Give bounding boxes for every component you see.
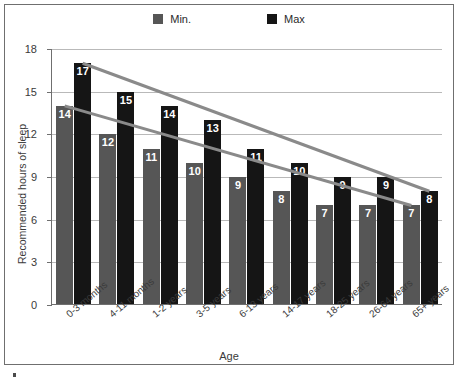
y-tick-label: 15 [3,86,37,98]
bar-max[interactable]: 9 [334,177,351,305]
bar-value-label: 7 [359,207,376,219]
bar-value-label: 7 [316,207,333,219]
chart-frame: Min. Max Recommended hours of sleep 1417… [4,4,454,365]
bar-max[interactable]: 15 [117,92,134,305]
bar-group: 1215 [95,49,138,305]
y-tick-mark [47,134,51,135]
legend-swatch-max-icon [267,14,277,24]
bar-min[interactable]: 9 [229,177,246,305]
bar-value-label: 11 [247,151,264,163]
bar-min[interactable]: 14 [56,106,73,305]
legend-label-max: Max [284,13,305,25]
x-axis-title: Age [5,350,453,362]
bar-max[interactable]: 17 [74,63,91,305]
y-tick-mark [47,262,51,263]
y-tick-label: 12 [3,128,37,140]
bar-value-label: 10 [291,165,308,177]
bar-value-label: 17 [74,65,91,77]
bar-max[interactable]: 8 [421,191,438,305]
bar-max[interactable]: 10 [291,163,308,305]
bar-value-label: 14 [56,108,73,120]
bar-value-label: 12 [99,136,116,148]
bar-group: 1013 [182,49,225,305]
legend-entry-min: Min. [153,13,191,25]
y-tick-label: 3 [3,256,37,268]
bar-value-label: 8 [421,193,438,205]
bar-value-label: 14 [161,108,178,120]
bar-value-label: 8 [273,193,290,205]
bar-group: 79 [355,49,398,305]
bar-value-label: 13 [204,122,221,134]
bar-value-label: 9 [377,179,394,191]
bar-max[interactable]: 14 [161,106,178,305]
y-tick-label: 18 [3,43,37,55]
y-tick-mark [47,305,51,306]
y-tick-label: 6 [3,214,37,226]
stray-mark [13,373,16,377]
bar-max[interactable]: 9 [377,177,394,305]
bar-group: 911 [225,49,268,305]
y-tick-mark [47,49,51,50]
bar-value-label: 9 [334,179,351,191]
chart-legend: Min. Max [5,13,453,25]
bar-group: 810 [269,49,312,305]
bar-max[interactable]: 11 [247,149,264,305]
bar-value-label: 15 [117,94,134,106]
legend-label-min: Min. [170,13,191,25]
bar-group: 1417 [52,49,95,305]
plot-area: 1417121511141013911810797978 [52,49,442,305]
y-tick-mark [47,220,51,221]
y-tick-label: 0 [3,299,37,311]
bar-value-label: 9 [229,179,246,191]
bar-min[interactable]: 10 [186,163,203,305]
bar-group: 79 [312,49,355,305]
y-tick-mark [47,177,51,178]
bar-group: 78 [399,49,442,305]
bar-group: 1114 [139,49,182,305]
bar-value-label: 10 [186,165,203,177]
bar-value-label: 11 [143,151,160,163]
legend-entry-max: Max [267,13,305,25]
y-tick-mark [47,92,51,93]
legend-swatch-min-icon [153,14,163,24]
bar-max[interactable]: 13 [204,120,221,305]
y-tick-label: 9 [3,171,37,183]
bar-value-label: 7 [403,207,420,219]
y-axis-title: Recommended hours of sleep [16,124,28,264]
